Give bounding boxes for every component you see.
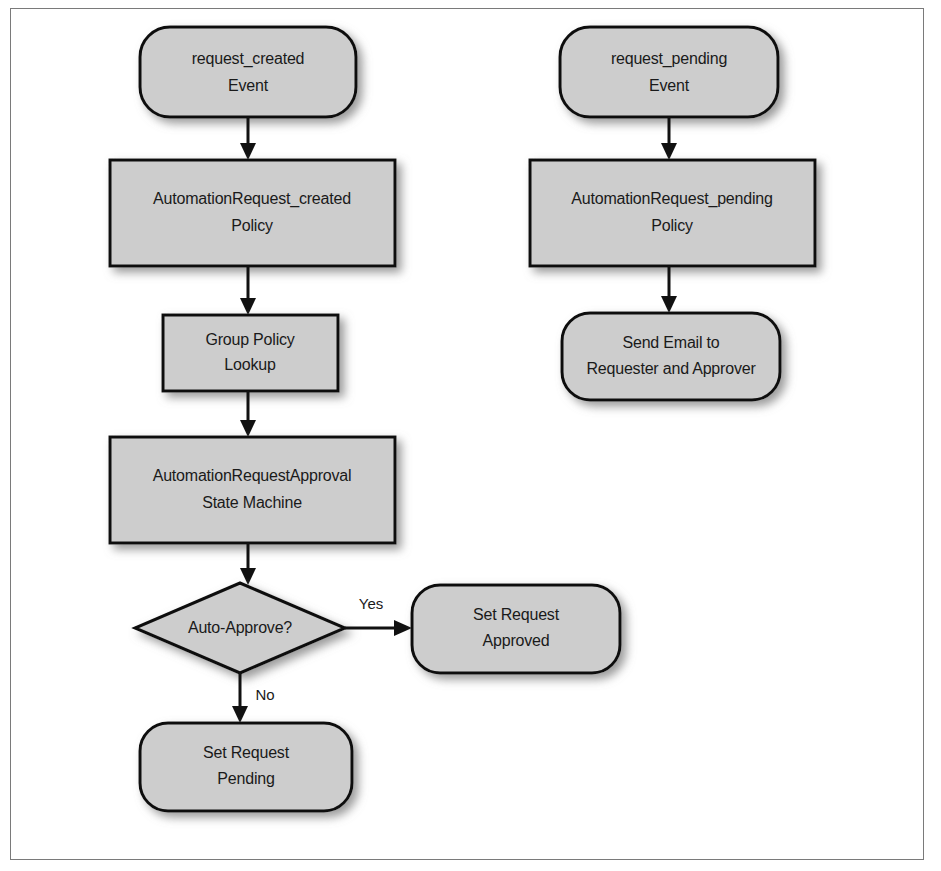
connector-decision-no: No xyxy=(232,673,275,723)
send-email-shape xyxy=(562,313,780,400)
group-policy-lookup-line1: Group Policy xyxy=(205,331,294,348)
set-request-approved-line1: Set Request xyxy=(473,606,560,623)
node-auto-approve-decision[interactable]: Auto-Approve? xyxy=(135,583,345,673)
automation-request-created-policy-line1: AutomationRequest_created xyxy=(153,190,351,208)
request-pending-event-shape xyxy=(560,27,778,117)
flowchart-diagram: request_created Event AutomationRequest_… xyxy=(0,0,941,871)
send-email-line1: Send Email to xyxy=(622,334,719,351)
request-created-event-shape xyxy=(140,27,356,117)
send-email-line2: Requester and Approver xyxy=(586,360,756,377)
group-policy-lookup-line2: Lookup xyxy=(224,356,276,373)
edge-label-yes: Yes xyxy=(359,595,383,612)
request-pending-event-line2: Event xyxy=(649,77,690,94)
automation-request-approval-state-machine-shape xyxy=(110,437,395,543)
connector-created-event-to-policy xyxy=(240,117,256,160)
auto-approve-decision-label: Auto-Approve? xyxy=(188,619,292,636)
set-request-pending-line2: Pending xyxy=(217,770,274,787)
automation-request-created-policy-line2: Policy xyxy=(231,217,273,234)
connector-pending-policy-to-send-email xyxy=(661,266,677,313)
set-request-pending-shape xyxy=(140,723,352,811)
node-automation-request-pending-policy[interactable]: AutomationRequest_pending Policy xyxy=(530,160,815,266)
set-request-approved-line2: Approved xyxy=(483,632,550,649)
connector-state-machine-to-decision xyxy=(240,543,256,585)
connector-decision-yes: Yes xyxy=(345,595,412,636)
group-policy-lookup-shape xyxy=(163,315,338,391)
node-automation-request-approval-state-machine[interactable]: AutomationRequestApproval State Machine xyxy=(110,437,395,543)
request-created-event-line2: Event xyxy=(228,77,269,94)
set-request-approved-shape xyxy=(412,585,620,673)
set-request-pending-line1: Set Request xyxy=(203,744,290,761)
node-group-policy-lookup[interactable]: Group Policy Lookup xyxy=(163,315,338,391)
node-send-email[interactable]: Send Email to Requester and Approver xyxy=(562,313,780,400)
node-request-pending-event[interactable]: request_pending Event xyxy=(560,27,778,117)
figure-root: request_created Event AutomationRequest_… xyxy=(0,0,941,871)
connector-pending-event-to-policy xyxy=(661,117,677,160)
automation-request-pending-policy-line2: Policy xyxy=(651,217,693,234)
connector-lookup-to-state-machine xyxy=(240,391,256,437)
automation-request-created-policy-shape xyxy=(110,160,395,266)
node-set-request-approved[interactable]: Set Request Approved xyxy=(412,585,620,673)
node-set-request-pending[interactable]: Set Request Pending xyxy=(140,723,352,811)
connector-created-policy-to-lookup xyxy=(240,266,256,315)
edge-label-no: No xyxy=(255,686,274,703)
state-machine-line2: State Machine xyxy=(202,494,302,511)
automation-request-pending-policy-shape xyxy=(530,160,815,266)
node-automation-request-created-policy[interactable]: AutomationRequest_created Policy xyxy=(110,160,395,266)
state-machine-line1: AutomationRequestApproval xyxy=(153,467,352,484)
automation-request-pending-policy-line1: AutomationRequest_pending xyxy=(571,190,772,208)
request-pending-event-line1: request_pending xyxy=(611,50,727,68)
node-request-created-event[interactable]: request_created Event xyxy=(140,27,356,117)
request-created-event-line1: request_created xyxy=(192,50,305,68)
